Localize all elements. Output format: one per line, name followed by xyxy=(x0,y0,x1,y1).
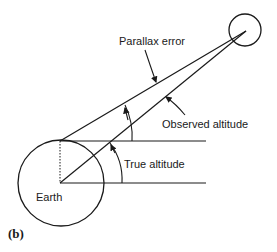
earth-label: Earth xyxy=(36,191,62,203)
true-altitude-label: True altitude xyxy=(124,158,185,170)
true-altitude-arc xyxy=(110,143,122,183)
parallax-error-leader-arrow-icon xyxy=(145,50,156,82)
parallax-error-label: Parallax error xyxy=(119,35,185,47)
observed-altitude-label: Observed altitude xyxy=(162,118,248,130)
panel-label: (b) xyxy=(8,226,24,241)
observed-altitude-leader-arrow-icon xyxy=(166,97,185,115)
parallax-diagram: Parallax error Observed altitude True al… xyxy=(0,0,277,252)
